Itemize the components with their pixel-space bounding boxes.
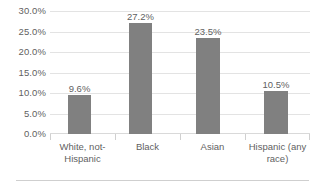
y-tick-label-10: 10.0% xyxy=(19,88,46,98)
category-tick-0 xyxy=(50,134,51,140)
bar-value-asian: 23.5% xyxy=(195,26,222,37)
bar-group-white-not-hispanic[interactable]: 9.6% xyxy=(68,11,91,134)
bar-hispanic-any-race[interactable] xyxy=(264,91,288,134)
y-tick-label-0: 0.0% xyxy=(24,129,46,139)
bar-value-hispanic-any-race: 10.5% xyxy=(263,79,290,90)
y-axis: 30.0% 25.0% 20.0% 15.0% 10.0% 5.0% 0.0% xyxy=(0,0,50,187)
y-tick-label-5: 5.0% xyxy=(24,109,46,119)
category-tick-2 xyxy=(180,134,181,140)
category-tick-3 xyxy=(245,134,246,140)
y-tick-label-25: 25.0% xyxy=(19,27,46,37)
y-tick-label-15: 15.0% xyxy=(19,68,46,78)
category-label-white-not-hispanic: White, not- Hispanic xyxy=(50,141,115,165)
bar-asian[interactable] xyxy=(196,38,220,134)
y-tick-label-30: 30.0% xyxy=(19,6,46,16)
category-label-line-1: White, not- xyxy=(50,141,115,153)
category-label-asian: Asian xyxy=(180,141,245,153)
bar-value-black: 27.2% xyxy=(127,11,154,22)
bar-white-not-hispanic[interactable] xyxy=(68,95,91,134)
plot-area: 9.6% 27.2% 23.5% 10.5% xyxy=(50,11,310,134)
category-label-black: Black xyxy=(115,141,180,153)
bar-chart: 30.0% 25.0% 20.0% 15.0% 10.0% 5.0% 0.0% … xyxy=(0,0,325,187)
category-label-line-1: Asian xyxy=(180,141,245,153)
bar-value-white-not-hispanic: 9.6% xyxy=(69,83,91,94)
category-label-hispanic-any-race: Hispanic (any race) xyxy=(245,141,310,165)
category-label-line-2: race) xyxy=(245,153,310,165)
category-label-line-1: Hispanic (any xyxy=(245,141,310,153)
bar-group-black[interactable]: 27.2% xyxy=(129,11,152,134)
bar-black[interactable] xyxy=(129,23,152,135)
category-label-line-2: Hispanic xyxy=(50,153,115,165)
bar-series: 9.6% 27.2% 23.5% 10.5% xyxy=(50,11,310,134)
category-label-line-1: Black xyxy=(115,141,180,153)
y-tick-label-20: 20.0% xyxy=(19,47,46,57)
bar-group-asian[interactable]: 23.5% xyxy=(196,11,220,134)
category-axis: White, not- Hispanic Black Asian Hispani… xyxy=(50,134,310,178)
category-tick-4 xyxy=(309,134,310,140)
category-tick-1 xyxy=(115,134,116,140)
bar-group-hispanic-any-race[interactable]: 10.5% xyxy=(264,11,288,134)
bottom-divider xyxy=(16,180,309,181)
